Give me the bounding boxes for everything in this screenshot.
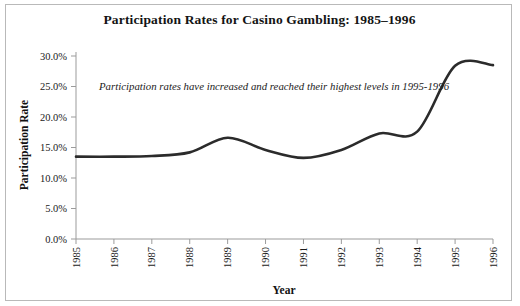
x-tick-label: 1993 xyxy=(374,247,385,268)
x-tick-label: 1988 xyxy=(184,247,195,268)
y-axis-ticks xyxy=(71,56,76,239)
x-tick-label: 1992 xyxy=(336,247,347,268)
y-axis-title: Participation Rate xyxy=(18,100,31,190)
y-tick-label: 25.0% xyxy=(40,81,67,92)
x-tick-label: 1985 xyxy=(71,247,82,268)
x-tick-label: 1987 xyxy=(146,247,157,268)
x-axis-tick-labels: 1985198619871988198919901991199219931994… xyxy=(71,246,499,268)
x-tick-label: 1989 xyxy=(222,247,233,268)
y-tick-label: 30.0% xyxy=(40,51,67,62)
series-line-participation-rate xyxy=(76,61,493,158)
x-tick-label: 1991 xyxy=(298,247,309,268)
y-tick-label: 5.0% xyxy=(45,203,67,214)
x-axis-title: Year xyxy=(273,284,296,296)
y-tick-label: 10.0% xyxy=(40,173,67,184)
line-chart-svg: 0.0%5.0%10.0%15.0%20.0%25.0%30.0% 198519… xyxy=(6,5,513,302)
x-tick-label: 1996 xyxy=(488,247,499,268)
x-tick-label: 1986 xyxy=(109,247,120,268)
y-tick-label: 20.0% xyxy=(40,112,67,123)
plot-area: 0.0%5.0%10.0%15.0%20.0%25.0%30.0% 198519… xyxy=(6,5,513,302)
chart-figure: Participation Rates for Casino Gambling:… xyxy=(5,4,512,301)
x-tick-label: 1990 xyxy=(260,247,271,268)
y-tick-label: 15.0% xyxy=(40,142,67,153)
chart-annotation: Participation rates have increased and r… xyxy=(98,80,450,92)
x-tick-label: 1995 xyxy=(450,247,461,268)
y-axis-tick-labels: 0.0%5.0%10.0%15.0%20.0%25.0%30.0% xyxy=(40,51,67,245)
y-tick-label: 0.0% xyxy=(45,234,67,245)
x-tick-label: 1994 xyxy=(412,246,423,268)
x-axis-ticks xyxy=(76,239,493,244)
